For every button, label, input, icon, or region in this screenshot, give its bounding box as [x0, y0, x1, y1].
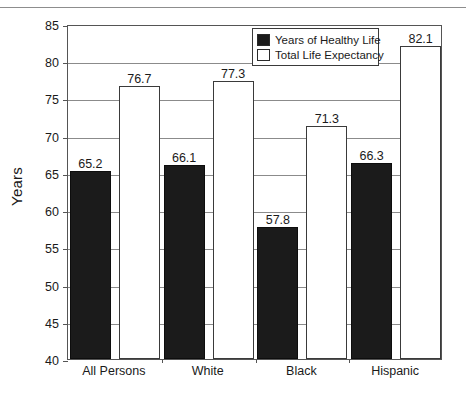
chart-legend: Years of Healthy Life Total Life Expecta… [252, 28, 379, 66]
y-axis-tick-label: 60 [45, 205, 59, 219]
x-axis-category-label: White [192, 364, 224, 378]
bar: 66.1 [164, 165, 205, 359]
y-axis-tick-label: 75 [45, 93, 59, 107]
y-axis-tick-label: 65 [45, 168, 59, 182]
y-axis-tick [63, 324, 68, 325]
x-axis-separator-tick [162, 359, 163, 363]
bar: 66.3 [351, 163, 392, 359]
legend-swatch-dark-icon [257, 34, 270, 46]
y-axis-tick-label: 70 [45, 131, 59, 145]
y-axis-tick [63, 249, 68, 250]
y-axis-tick-label: 45 [45, 317, 59, 331]
caption-remnant [0, 386, 466, 392]
bar: 76.7 [119, 86, 160, 359]
bar: 82.1 [400, 46, 441, 359]
bar-value-label: 76.7 [127, 72, 151, 86]
y-axis-tick [63, 100, 68, 101]
y-axis-title: Years [8, 152, 25, 222]
y-axis-tick-label: 55 [45, 242, 59, 256]
legend-entry-total-life-expectancy: Total Life Expectancy [257, 47, 373, 62]
bar-value-label: 57.8 [266, 213, 290, 227]
y-axis-tick [63, 63, 68, 64]
y-axis-tick [63, 138, 68, 139]
bar-value-label: 66.1 [172, 151, 196, 165]
x-axis-separator-tick [349, 359, 350, 363]
bar-value-label: 77.3 [221, 67, 245, 81]
bar-value-label: 66.3 [359, 149, 383, 163]
x-axis-category-label: Hispanic [371, 364, 419, 378]
y-axis-tick-label: 50 [45, 280, 59, 294]
legend-swatch-light-icon [257, 49, 270, 61]
x-axis-separator-tick [256, 359, 257, 363]
bar-value-label: 82.1 [408, 32, 432, 46]
y-axis-tick-label: 80 [45, 56, 59, 70]
y-axis-tick [63, 361, 68, 362]
x-axis-category-label: All Persons [82, 364, 145, 378]
x-axis-category-label: Black [286, 364, 317, 378]
bar-value-label: 71.3 [315, 112, 339, 126]
bar-value-label: 65.2 [78, 157, 102, 171]
y-axis-tick [63, 212, 68, 213]
bar-chart-figure: Years 40455055606570758085 65.276.766.17… [0, 0, 466, 394]
y-axis-tick [63, 175, 68, 176]
y-axis-tick [63, 26, 68, 27]
y-axis-tick [63, 287, 68, 288]
legend-label: Total Life Expectancy [275, 49, 384, 61]
bar: 77.3 [213, 81, 254, 359]
y-axis-tick-label: 40 [45, 354, 59, 368]
plot-area: 40455055606570758085 65.276.766.177.357.… [67, 25, 442, 360]
legend-entry-years-of-healthy-life: Years of Healthy Life [257, 32, 373, 47]
bar: 57.8 [257, 227, 298, 360]
bar: 71.3 [306, 126, 347, 359]
bar: 65.2 [70, 171, 111, 359]
legend-label: Years of Healthy Life [275, 34, 381, 46]
y-axis-tick-label: 85 [45, 19, 59, 33]
